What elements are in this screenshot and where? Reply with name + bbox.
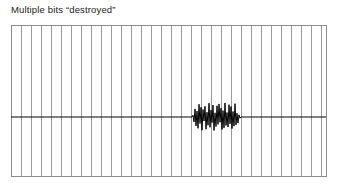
plot-frame bbox=[12, 26, 327, 177]
chart-title: Multiple bits “destroyed” bbox=[11, 4, 116, 16]
plot-svg bbox=[11, 25, 327, 177]
gridlines-group bbox=[22, 26, 322, 176]
figure-container: Multiple bits “destroyed” bbox=[0, 0, 338, 191]
plot-area bbox=[11, 25, 327, 177]
plot-frame-rect bbox=[12, 26, 327, 177]
signal-trace bbox=[11, 103, 326, 131]
